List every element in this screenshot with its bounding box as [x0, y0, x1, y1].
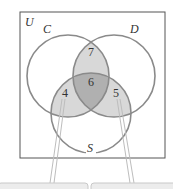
- set-d-label: D: [129, 22, 139, 36]
- venn-diagram: U C D S 7 6 4 5: [0, 0, 173, 189]
- region-c-d-value: 7: [88, 45, 94, 59]
- universe-label: U: [25, 15, 35, 29]
- region-c-s-value: 4: [62, 86, 68, 100]
- callout-box-left: [0, 183, 88, 189]
- region-d-s-value: 5: [113, 86, 119, 100]
- set-s-label: S: [87, 141, 93, 155]
- set-c-label: C: [43, 22, 52, 36]
- callout-box-right: [91, 183, 173, 189]
- region-c-d-s-value: 6: [88, 75, 94, 89]
